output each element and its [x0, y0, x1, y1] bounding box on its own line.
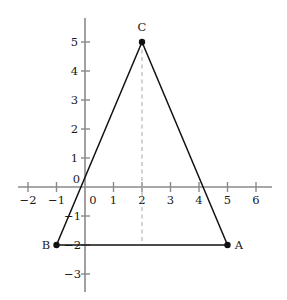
y-axis-label-2: 2 — [71, 122, 78, 136]
y-axis-label-3: 3 — [71, 93, 78, 107]
x-tick-labels: −2 −1 0 1 2 3 4 5 6 — [20, 193, 260, 207]
y-axis-label-5: 5 — [71, 35, 78, 49]
point-label-a: A — [234, 238, 244, 252]
y-axis-label-1: 1 — [71, 151, 78, 165]
y-tick-labels: 5 4 3 2 1 0 −1 −2 −3 — [64, 35, 81, 281]
point-label-c: C — [138, 20, 147, 34]
y-axis-label-zero: 0 — [73, 172, 80, 186]
point-c-marker[interactable] — [139, 39, 145, 45]
triangle-side-cb — [57, 42, 143, 245]
triangle-side-ca — [142, 42, 228, 245]
x-axis-label-3: 3 — [167, 193, 174, 207]
x-axis-label-4: 4 — [195, 193, 202, 207]
y-axis-label-4: 4 — [71, 64, 78, 78]
point-b-marker[interactable] — [53, 242, 59, 248]
coordinate-plot: −2 −1 0 1 2 3 4 5 6 5 4 3 2 1 0 −1 −2 −3 — [0, 0, 287, 300]
x-axis-label-neg2: −2 — [20, 193, 37, 207]
point-label-b: B — [42, 238, 50, 252]
x-axis-label-5: 5 — [224, 193, 231, 207]
x-axis-label-6: 6 — [252, 193, 259, 207]
point-a-marker[interactable] — [224, 242, 230, 248]
x-axis-label-zero: 0 — [89, 193, 96, 207]
y-axis-label-neg3: −3 — [64, 267, 81, 281]
x-axis-label-neg1: −1 — [48, 193, 65, 207]
x-axis-label-1: 1 — [110, 193, 117, 207]
plot-canvas: −2 −1 0 1 2 3 4 5 6 5 4 3 2 1 0 −1 −2 −3 — [0, 0, 287, 300]
